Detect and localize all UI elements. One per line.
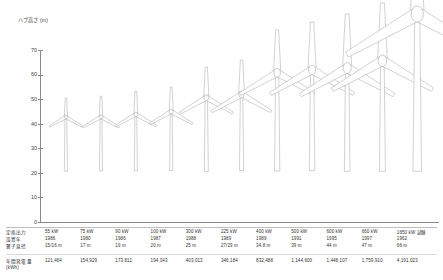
cell-rating: 660 kW <box>362 229 378 234</box>
cell-year: 1988 <box>186 236 196 241</box>
y-axis-tick-mark <box>38 197 43 198</box>
cell-rotor-diameter: 34.8 m <box>256 243 270 248</box>
row-label-year: 設置年 <box>6 236 21 242</box>
cell-annual-generation: 346,184 <box>221 258 238 263</box>
y-axis-tick-label: 30 <box>19 145 37 151</box>
y-axis-tick-mark <box>38 148 43 149</box>
row-label-rotor: 翼子直径 <box>6 243 27 249</box>
cell-rating: 1650 kW 試験 <box>397 229 425 235</box>
y-axis-tick-mark <box>38 222 43 223</box>
y-axis-tick-label: 40 <box>19 121 37 127</box>
y-axis-tick-mark <box>38 50 43 51</box>
y-axis-tick-mark <box>38 99 43 100</box>
x-axis-line <box>40 222 439 223</box>
wind-turbine-size-chart: ハブ高さ (m) 706050403020100 <box>0 0 443 280</box>
cell-rotor-diameter: 25 m <box>186 243 196 248</box>
cell-annual-generation: 173,811 <box>115 258 132 263</box>
y-axis-tick-mark <box>38 75 43 76</box>
cell-rotor-diameter: 15/16 m <box>45 243 62 248</box>
cell-rotor-diameter: 66 m <box>397 243 407 248</box>
cell-annual-generation: 154,929 <box>80 258 97 263</box>
turbine-glyph <box>324 0 443 171</box>
y-axis-tick-mark <box>38 124 43 125</box>
cell-year: 1986 <box>45 236 55 241</box>
cell-year: 1980 <box>80 236 90 241</box>
cell-rating: 400 kW <box>256 229 272 234</box>
y-axis-tick-label: 70 <box>19 47 37 53</box>
plot-area: 706050403020100 <box>0 0 443 228</box>
cell-rating: 225 kW <box>221 229 237 234</box>
cell-year: 1997 <box>362 236 372 241</box>
cell-year: 1995 <box>326 236 336 241</box>
cell-year: 1989 <box>256 236 266 241</box>
y-axis-tick-label: 50 <box>19 96 37 102</box>
cell-rotor-diameter: 19 m <box>115 243 125 248</box>
y-axis-tick-label: 10 <box>19 194 37 200</box>
cell-annual-generation: 1,144,600 <box>291 258 312 263</box>
cell-annual-generation: 832,488 <box>256 258 273 263</box>
cell-rotor-diameter: 17 m <box>80 243 90 248</box>
cell-annual-generation: 1,759,910 <box>362 258 383 263</box>
cell-year: 1962 <box>397 236 407 241</box>
cell-year: 1991 <box>291 236 301 241</box>
cell-rating: 55 kW <box>45 229 58 234</box>
cell-rotor-diameter: 20 m <box>151 243 161 248</box>
data-table: 定格出力 設置年 翼子直径 年間発電量 (kWh) 55 kW198615/16… <box>0 227 443 280</box>
row-label-rating: 定格出力 <box>6 229 27 235</box>
row-label-unit: (kWh) <box>6 265 19 270</box>
cell-rating: 90 kW <box>115 229 128 234</box>
cell-year: 1989 <box>221 236 231 241</box>
cell-rating: 75 kW <box>80 229 93 234</box>
cell-rating: 100 kW <box>151 229 167 234</box>
cell-year: 1987 <box>151 236 161 241</box>
y-axis-tick-label: 20 <box>19 170 37 176</box>
table-divider-top <box>6 227 437 228</box>
row-label-generation: 年間発電量 <box>6 258 32 264</box>
y-axis-tick-mark <box>38 173 43 174</box>
cell-rating: 500 kW <box>291 229 307 234</box>
cell-annual-generation: 403,013 <box>186 258 203 263</box>
table-divider-mid <box>6 254 437 255</box>
y-axis-tick-label: 0 <box>19 219 37 225</box>
cell-rotor-diameter: 44 m <box>326 243 336 248</box>
cell-annual-generation: 194,343 <box>151 258 168 263</box>
y-axis-tick-label: 60 <box>19 71 37 77</box>
cell-year: 1986 <box>115 236 125 241</box>
cell-annual-generation: 121,464 <box>45 258 62 263</box>
cell-rotor-diameter: 27/29 m <box>221 243 238 248</box>
cell-rotor-diameter: 39 m <box>291 243 301 248</box>
cell-annual-generation: 4,191,023 <box>397 258 418 263</box>
cell-rotor-diameter: 47 m <box>362 243 372 248</box>
cell-rating: 300 kW <box>186 229 202 234</box>
cell-rating: 600 kW <box>326 229 342 234</box>
cell-annual-generation: 1,448,107 <box>326 258 347 263</box>
